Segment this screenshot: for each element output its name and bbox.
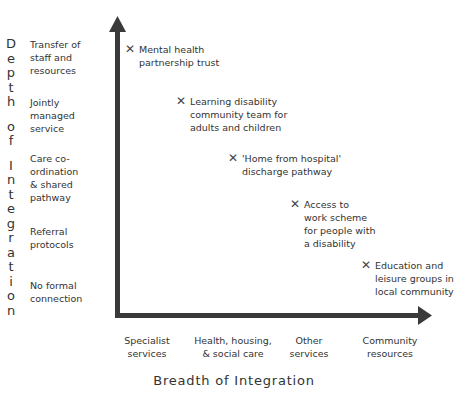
y-axis-title-letter: i (9, 275, 13, 290)
cross-marker-icon: ✕ (228, 152, 238, 164)
y-axis-title-letter: p (7, 66, 15, 81)
x-axis-title: Breadth of Integration (0, 373, 468, 388)
point-access-to-work: ✕ Access to work scheme for people with … (290, 198, 375, 250)
y-axis-title-letter: t (8, 260, 13, 275)
y-axis-title-letter: o (7, 289, 15, 304)
y-axis-title-letter: n (7, 304, 15, 319)
y-axis-title-letter: e (7, 202, 15, 217)
x-tick-other: Other services (266, 334, 352, 360)
x-tick-community: Community resources (347, 334, 433, 360)
y-axis-title-letter: n (7, 173, 15, 188)
point-mental-health: ✕ Mental health partnership trust (125, 43, 219, 69)
y-tick-no-formal: No formal connection (30, 279, 110, 305)
x-tick-specialist: Specialist services (104, 334, 190, 360)
cross-marker-icon: ✕ (290, 198, 300, 210)
y-axis-title-letter: e (7, 52, 15, 67)
cross-marker-icon: ✕ (176, 95, 186, 107)
y-axis-title: DepthofIntegration (4, 37, 18, 318)
y-axis-title-letter: I (9, 159, 13, 174)
point-home-from-hospital: ✕ 'Home from hospital' discharge pathway (228, 152, 341, 178)
cross-marker-icon: ✕ (361, 259, 371, 271)
cross-marker-icon: ✕ (125, 43, 135, 55)
y-axis-title-letter: f (9, 134, 14, 149)
y-tick-care-coordination: Care co- ordination & shared pathway (30, 152, 110, 204)
point-learning-disability: ✕ Learning disability community team for… (176, 95, 287, 134)
y-axis-title-letter: a (7, 246, 15, 261)
y-tick-jointly-managed: Jointly managed service (30, 96, 110, 135)
y-tick-transfer: Transfer of staff and resources (30, 38, 110, 77)
y-axis-title-letter: t (8, 188, 13, 203)
x-tick-health-housing: Health, housing, & social care (190, 334, 276, 360)
y-tick-referral: Referral protocols (30, 225, 110, 251)
y-axis-title-letter: g (7, 217, 15, 232)
y-axis-line (109, 16, 126, 318)
point-education-leisure: ✕ Education and leisure groups in local … (361, 259, 454, 298)
x-axis-line (115, 306, 432, 325)
y-axis-title-letter: r (8, 231, 13, 246)
y-axis-title-letter: h (7, 95, 15, 110)
y-axis-title-letter: o (7, 120, 15, 135)
y-axis-title-letter: t (8, 81, 13, 96)
y-axis-title-letter: D (6, 37, 16, 52)
